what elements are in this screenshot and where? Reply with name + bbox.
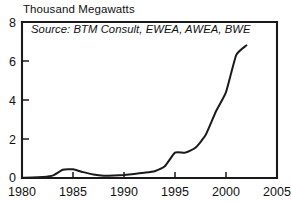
x-axis-label-1980: 1980 [8, 185, 36, 199]
x-axis-label-1990: 1990 [110, 185, 138, 199]
y-axis-label-4: 4 [9, 94, 16, 108]
line-chart: Thousand Megawatts Source: BTM Consult, … [0, 0, 291, 204]
data-series-line [22, 45, 246, 177]
x-axis-label-1985: 1985 [59, 185, 87, 199]
y-axis-label-2: 2 [9, 133, 16, 147]
y-axis-label-6: 6 [9, 55, 16, 69]
chart-title: Thousand Megawatts [23, 3, 135, 15]
chart-container: Thousand Megawatts Source: BTM Consult, … [0, 0, 291, 204]
x-axis-label-2005: 2005 [263, 185, 291, 199]
x-axis-label-1995: 1995 [161, 185, 189, 199]
y-axis-label-8: 8 [9, 16, 16, 30]
y-axis-label-0: 0 [9, 171, 16, 185]
source-annotation: Source: BTM Consult, EWEA, AWEA, BWE [31, 23, 251, 35]
x-axis-label-2000: 2000 [212, 185, 240, 199]
